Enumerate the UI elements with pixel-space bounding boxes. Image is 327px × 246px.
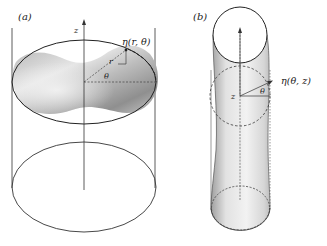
z-axis-arrow-icon — [82, 19, 86, 25]
surface-point — [125, 49, 128, 52]
eta-theta-z-label: η(θ, z) — [281, 75, 311, 86]
z-axis-label: z — [73, 26, 79, 35]
angle-label-b: θ — [260, 87, 265, 96]
panel-b-label: (b) — [193, 11, 207, 22]
tube-surface — [211, 35, 270, 230]
panel-b: (b) θ z η(θ, z) — [193, 7, 311, 230]
surface-highlight — [13, 45, 158, 114]
panel-a-label: (a) — [18, 11, 32, 22]
panel-a: (a) z r θ η(r, θ) — [12, 11, 158, 232]
z-axis-b-label: z — [230, 92, 236, 101]
figure: (a) z r θ η(r, θ) (b) — [0, 0, 327, 246]
angle-label-a: θ — [104, 72, 109, 81]
eta-r-theta-label: η(r, θ) — [122, 36, 151, 47]
